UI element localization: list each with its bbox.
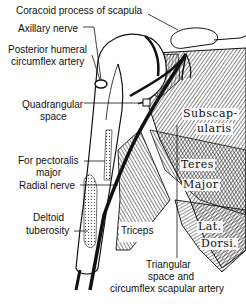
coracoid-process: [171, 28, 218, 48]
label-deltoid-line1: Deltoid: [33, 212, 64, 223]
label-radial-nerve: Radial nerve: [19, 180, 75, 191]
label-subscapularis-line1: Subscap-: [182, 108, 239, 120]
label-posterior-humeral-line1: Posterior humeral: [8, 44, 87, 55]
label-teres-line1: Teres: [180, 159, 215, 171]
label-triangular-line2: space and: [148, 271, 194, 282]
label-pectoralis-line1: For pectoralis: [18, 155, 79, 166]
label-quadrangular-line1: Quadrangular: [22, 99, 83, 110]
label-triangular-line3: circumflex scapular artery: [110, 283, 224, 294]
label-lat-dorsi-line2: Dorsi.: [200, 238, 238, 250]
label-lat-dorsi-line1: Lat.: [197, 221, 223, 233]
label-quadrangular-line2: space: [40, 111, 67, 122]
label-triceps: Triceps: [121, 225, 153, 236]
label-posterior-humeral-line2: circumflex artery: [11, 56, 84, 67]
label-axillary-nerve: Axillary nerve: [18, 23, 78, 34]
deltoid-tuberosity: [84, 175, 97, 248]
label-subscapularis-line2: ularis: [196, 123, 233, 135]
label-triangular-line1: Triangular: [146, 259, 191, 270]
label-teres-line2: Major: [182, 179, 220, 191]
label-pectoralis-line2: major: [36, 167, 61, 178]
label-deltoid-line2: tuberosity: [26, 225, 69, 236]
label-coracoid-process: Coracoid process of scapula: [16, 5, 142, 16]
axillary-nerve-bundle: [95, 80, 107, 88]
